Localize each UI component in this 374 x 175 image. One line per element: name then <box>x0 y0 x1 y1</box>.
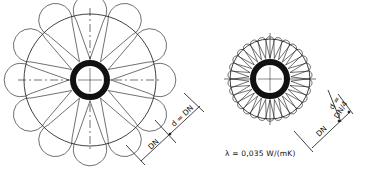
left-extension-line-1 <box>126 145 145 165</box>
thermal-conductivity-formula: λ = 0,035 W/(mK) <box>225 149 296 158</box>
insulation-diagram: DN d = DN DN d = DN/4 λ = 0,035 W/(mK) <box>0 0 374 175</box>
right-dimension-tick-2 <box>348 111 350 113</box>
left-d-label: d = DN <box>169 103 195 128</box>
right-dn-label: DN <box>314 124 328 138</box>
right-dimension <box>294 90 353 152</box>
right-extension-line-1 <box>294 131 313 152</box>
right-fiber-bundle <box>224 33 316 125</box>
left-dimension-tick <box>169 133 171 135</box>
left-dn-label: DN <box>146 137 160 151</box>
